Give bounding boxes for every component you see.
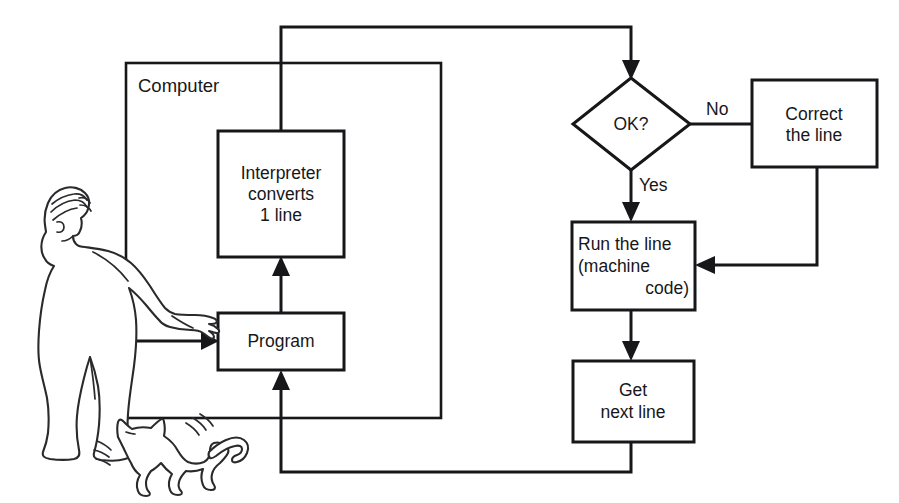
node-program-label: Program	[247, 331, 314, 351]
arrowhead-correct-to-run	[695, 256, 715, 274]
node-run-the-line[interactable]: Run the line (machine code)	[572, 222, 695, 310]
node-correct-line2: the line	[786, 125, 842, 145]
node-program[interactable]: Program	[218, 313, 344, 370]
computer-container-label: Computer	[138, 75, 219, 96]
arrowhead-run-to-getnext	[622, 341, 640, 361]
node-run-line1: Run the line	[578, 234, 671, 254]
node-interpreter-line3: 1 line	[260, 205, 302, 225]
arrowhead-getnext-to-program	[272, 370, 290, 390]
node-decision-ok[interactable]: OK?	[573, 78, 690, 170]
node-interpreter[interactable]: Interpreter converts 1 line	[218, 131, 344, 257]
node-interpreter-line1: Interpreter	[241, 163, 322, 183]
node-get-next-line[interactable]: Get next line	[573, 361, 694, 442]
arrowhead-program-to-interpreter	[272, 256, 290, 276]
edge-run-to-getnext	[622, 310, 640, 361]
cat-tail-motion-line-1	[186, 423, 199, 435]
edge-program-to-interpreter	[272, 256, 290, 313]
node-getnext-line1: Get	[619, 380, 647, 400]
edge-label-no: No	[706, 99, 728, 119]
node-correct-line1: Correct	[785, 104, 843, 124]
arrowhead-yes-to-run	[622, 202, 640, 222]
node-decision-label: OK?	[613, 114, 648, 134]
node-getnext-line2: next line	[600, 402, 665, 422]
node-run-line3: code)	[645, 278, 689, 298]
node-interpreter-line2: converts	[248, 184, 314, 204]
edge-correct-to-run	[695, 167, 817, 274]
node-correct-the-line[interactable]: Correct the line	[752, 80, 877, 167]
flowchart-svg: Computer Interpreter converts 1 line Pro…	[0, 0, 899, 503]
person-body-outline	[38, 187, 219, 460]
edge-label-yes: Yes	[639, 175, 668, 195]
edge-decision-yes-to-run	[622, 170, 640, 222]
cat-tail-motion-line-2	[193, 418, 206, 430]
node-run-line2: (machine	[578, 256, 650, 276]
flowchart-canvas: Computer Interpreter converts 1 line Pro…	[0, 0, 899, 503]
person-figure	[38, 187, 219, 460]
